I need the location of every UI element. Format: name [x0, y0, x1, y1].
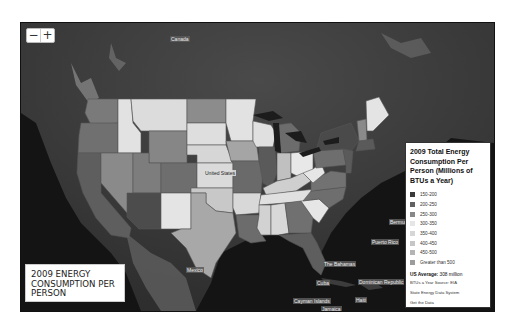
label-haiti: Haiti	[355, 297, 367, 303]
legend-item-label: 400-450	[420, 241, 437, 246]
label-cuba: Cuba	[316, 280, 330, 286]
legend-panel: 2009 Total Energy Consumption Per Person…	[405, 142, 491, 308]
legend-item-label: 200-250	[420, 202, 437, 207]
zoom-control: − +	[26, 28, 55, 43]
legend-swatch	[410, 212, 415, 217]
legend-item: 300-350	[410, 219, 486, 229]
legend-item: 250-300	[410, 209, 486, 219]
legend-item-label: 300-350	[420, 221, 437, 226]
us-average-label: US Average:	[410, 272, 438, 277]
legend-swatch	[410, 250, 415, 255]
legend-item: 200-250	[410, 200, 486, 210]
us-average: US Average: 308 million	[410, 271, 486, 278]
legend-item: 400-450	[410, 238, 486, 248]
legend-item-label: 450-500	[420, 250, 437, 255]
get-data-link[interactable]: Get the Data	[410, 298, 486, 308]
legend-item-label: 350-400	[420, 231, 437, 236]
legend-swatch	[410, 241, 415, 246]
legend-item-label: Greater than 500	[420, 260, 455, 265]
zoom-out-button[interactable]: −	[27, 29, 40, 42]
legend-items: 150-200200-250250-300300-350350-400400-4…	[410, 190, 486, 268]
map-title: 2009 Energy Consumption Per Person	[31, 269, 115, 298]
label-bahamas: The Bahamas	[323, 261, 356, 267]
us-average-value: 308 million	[440, 272, 463, 277]
legend-swatch	[410, 192, 415, 197]
map-title-box: 2009 Energy Consumption Per Person	[25, 264, 125, 302]
legend-swatch	[410, 221, 415, 226]
label-mexico: Mexico	[186, 267, 204, 273]
legend-item-label: 250-300	[420, 212, 437, 217]
map-canvas[interactable]: − + Canada United States Mexico The Baha…	[20, 22, 495, 312]
label-jamaica: Jamaica	[321, 306, 342, 312]
legend-item: 450-500	[410, 248, 486, 258]
legend-item: 150-200	[410, 190, 486, 200]
source-line-1: BTUs a Year Source: EIA	[410, 278, 486, 288]
label-dominican-republic: Dominican Republic	[358, 279, 404, 285]
legend-swatch	[410, 260, 415, 265]
label-canada: Canada	[170, 36, 190, 42]
legend-swatch	[410, 231, 415, 236]
label-puerto-rico: Puerto Rico	[371, 239, 399, 245]
legend-item: Greater than 500	[410, 258, 486, 268]
legend-swatch	[410, 202, 415, 207]
legend-title: 2009 Total Energy Consumption Per Person…	[410, 147, 486, 185]
source-line-2: State Energy Data System	[410, 288, 486, 298]
zoom-in-button[interactable]: +	[40, 29, 54, 42]
label-united-states: United States	[204, 170, 236, 176]
legend-item-label: 150-200	[420, 192, 437, 197]
legend-item: 350-400	[410, 229, 486, 239]
label-cayman-islands: Cayman Islands	[293, 298, 331, 304]
